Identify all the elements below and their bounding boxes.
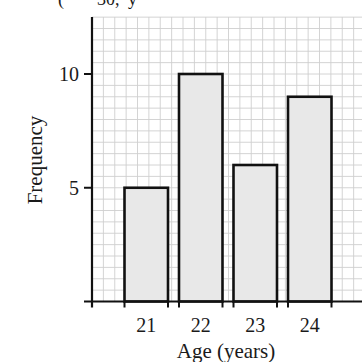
y-tick-label: 10 [59, 63, 79, 85]
x-axis-title: Age (years) [177, 339, 276, 362]
x-tick-label: 24 [300, 314, 320, 336]
x-tick-label: 23 [245, 314, 265, 336]
bar-21 [125, 188, 169, 302]
x-tick-label: 22 [191, 314, 211, 336]
y-axis-title: Frequency [23, 115, 47, 204]
bar-24 [288, 97, 332, 302]
bar-23 [234, 165, 278, 302]
y-tick-label: 5 [69, 177, 79, 199]
bar-chart: 21222324510Age (years)Frequency [0, 0, 362, 362]
x-tick-label: 21 [136, 314, 156, 336]
bar-22 [179, 74, 223, 302]
